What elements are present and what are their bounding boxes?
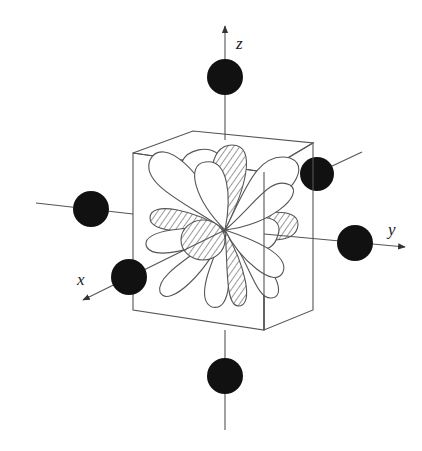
ligand-back-y [300,157,334,191]
axis-y [264,234,405,247]
label-y: y [386,220,396,239]
ligand-left [73,191,109,227]
d-orbitals [146,145,299,307]
ligand-plus-z [207,59,243,95]
label-x: x [76,270,85,289]
ligand-plus-y [337,225,373,261]
ligand-plus-x [111,259,147,295]
ligand-minus-z [207,358,243,394]
orbital-diagram: y x z [0,0,422,451]
label-z: z [235,34,243,53]
